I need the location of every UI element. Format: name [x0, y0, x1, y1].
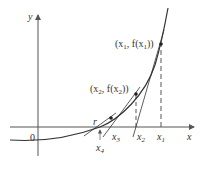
- tick-x1: x1: [156, 131, 165, 144]
- svg-text:(x2, f(x2)): (x2, f(x2)): [90, 83, 129, 96]
- function-curve: [10, 8, 168, 140]
- root-label: r: [93, 116, 97, 127]
- tick-x2: x2: [136, 131, 145, 144]
- point-label-x2: (x2, f(x2)): [90, 83, 129, 96]
- point-x1: [159, 42, 163, 46]
- y-axis-label: y: [27, 11, 33, 22]
- point-x3: [109, 116, 113, 120]
- tick-x3: x3: [111, 131, 120, 144]
- point-x2: [134, 92, 138, 96]
- newton-method-diagram: y x 0 r (x1, f(x1)) (x2, f(x2)) x1 x2 x3…: [0, 0, 204, 171]
- point-label-x1: (x1, f(x1)): [115, 38, 154, 51]
- x-axis-label: x: [186, 131, 192, 142]
- svg-text:(x1, f(x1)): (x1, f(x1)): [115, 38, 154, 51]
- tick-x4: x4: [95, 142, 104, 155]
- origin-label: 0: [30, 132, 35, 143]
